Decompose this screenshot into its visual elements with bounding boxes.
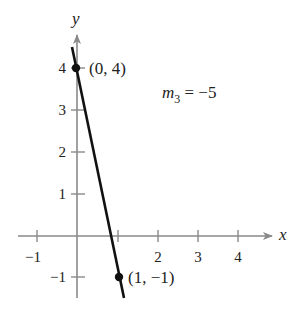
point-label: (1, −1) (128, 268, 174, 287)
slope-annotation: m3 = −5 (162, 83, 216, 106)
chart: −1 2 3 4 −1 1 2 3 4 x y (0, 4) (1, −1) m… (0, 0, 303, 313)
slope-symbol: m (162, 83, 174, 102)
x-tick-label: −1 (25, 249, 41, 265)
x-tick-label: 4 (234, 249, 242, 265)
line-series (72, 47, 124, 298)
point-label: (0, 4) (89, 59, 126, 78)
y-tick-label: 2 (59, 144, 67, 160)
slope-value: = −5 (180, 83, 216, 102)
y-tick-label: 3 (59, 102, 67, 118)
x-tick-label: 2 (154, 249, 162, 265)
y-tick-label: −1 (50, 269, 66, 285)
y-tick-label: 1 (59, 186, 67, 202)
y-tick-label: 4 (59, 60, 67, 76)
y-axis-label: y (70, 9, 80, 28)
x-axis-label: x (278, 225, 287, 244)
point-1-neg1 (115, 273, 123, 281)
x-tick-label: 3 (194, 249, 202, 265)
point-0-4 (72, 64, 80, 72)
